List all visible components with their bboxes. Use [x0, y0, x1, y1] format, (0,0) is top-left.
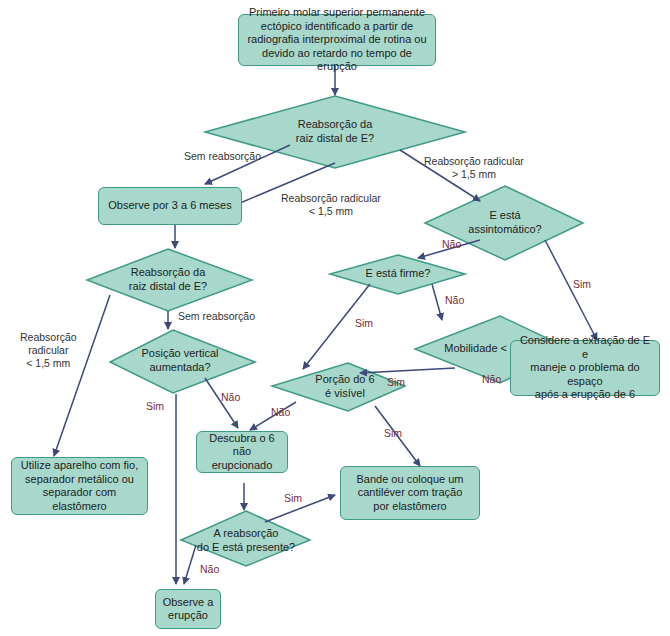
asymptomatic-question: E está assintomático?: [468, 209, 541, 236]
resorption-question-1: Reabsorção da raiz distal de E?: [296, 118, 374, 145]
edge-label-asym-yes: Sim: [573, 278, 591, 291]
edge-label-vertical-yes: Sim: [146, 400, 164, 413]
edge-label-present-yes: Sim: [284, 492, 302, 505]
portion-visible-question: Porção do 6 é visível: [315, 373, 374, 400]
edge-label-root-lt-2: Reabsorção radicular < 1,5 mm: [20, 331, 77, 370]
band-cantilever-node: Bande ou coloque um cantiléver com traçã…: [340, 466, 480, 520]
edge-label-portion-yes: Sim: [384, 427, 402, 440]
edge-label-portion-no: Não: [271, 406, 290, 419]
edge-label-firm-yes: Sim: [355, 317, 373, 330]
vertical-position-question: Posição vertical aumentada?: [141, 347, 218, 374]
resorption-question-2: Reabsorção da raiz distal de E?: [129, 266, 207, 293]
edge-label-mobility-yes: Sim: [387, 376, 405, 389]
consider-extraction-node: Considere a extração de E e maneje o pro…: [510, 340, 660, 396]
flowchart-canvas: [0, 0, 670, 636]
observe-3-6-months-node: Observe por 3 a 6 meses: [98, 187, 242, 225]
uncover-tooth-node: Descubra o 6 não erupcionado: [196, 431, 288, 473]
observe-eruption-node: Observe a erupção: [155, 589, 221, 629]
edge-label-root-lt-1: Reabsorção radicular < 1,5 mm: [281, 192, 381, 218]
edge-label-no-resorption-1: Sem reabsorção: [184, 150, 261, 163]
edge-label-firm-no: Não: [445, 294, 464, 307]
edge-label-present-no: Não: [200, 563, 219, 576]
edge-label-vertical-no: Não: [221, 391, 240, 404]
edge-label-mobility-no: Não: [482, 373, 501, 386]
firm-question: E está firme?: [366, 267, 431, 281]
resorption-present-question: A reabsorção do E está presente?: [197, 527, 295, 554]
edge-label-root-gt: Reabsorção radicular > 1,5 mm: [424, 155, 524, 181]
edge-label-no-resorption-2: Sem reabsorção: [178, 310, 255, 323]
start-node: Primeiro molar superior permanente ectóp…: [238, 14, 436, 66]
use-appliance-node: Utilize aparelho com fio, separador metá…: [11, 457, 148, 515]
edge-label-asym-no: Não: [442, 238, 461, 251]
